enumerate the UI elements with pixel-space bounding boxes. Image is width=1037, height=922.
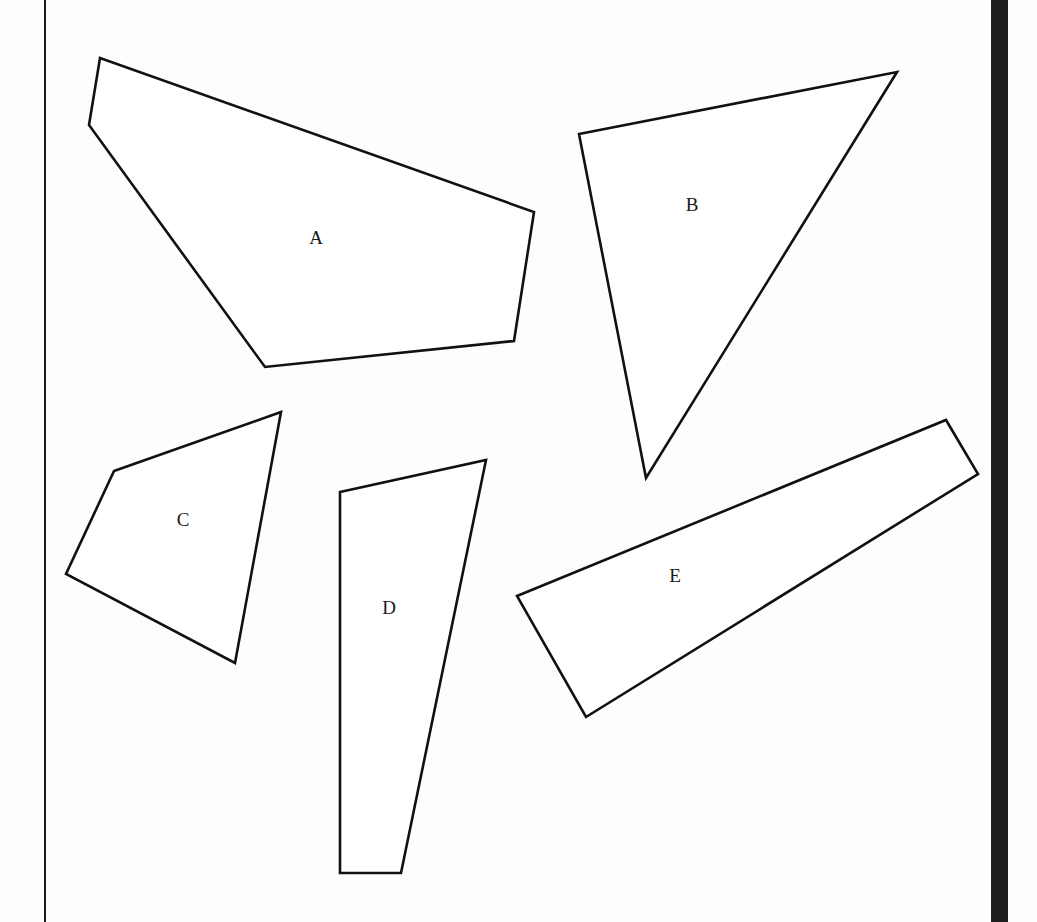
polygon-d <box>340 460 486 873</box>
label-d: D <box>382 597 396 618</box>
figure-canvas: A B C D E <box>0 0 1037 922</box>
shape-d: D <box>340 460 486 873</box>
shape-c: C <box>66 412 281 663</box>
label-e: E <box>669 565 681 586</box>
shape-a: A <box>89 58 534 367</box>
shape-b: B <box>579 72 897 478</box>
polygon-a <box>89 58 534 367</box>
label-c: C <box>177 509 190 530</box>
label-a: A <box>309 227 323 248</box>
label-b: B <box>686 194 699 215</box>
polygon-b <box>579 72 897 478</box>
polygons-diagram: A B C D E <box>0 0 1037 922</box>
polygon-c <box>66 412 281 663</box>
shape-e: E <box>517 420 978 717</box>
polygon-e <box>517 420 978 717</box>
